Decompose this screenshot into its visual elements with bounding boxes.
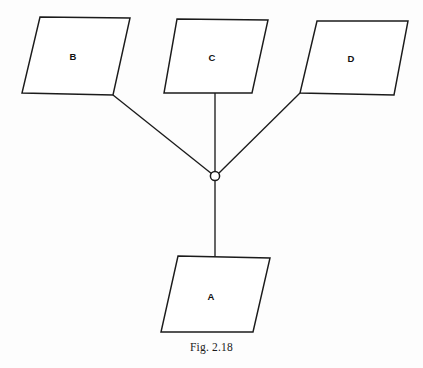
diagram-canvas: B C D A [0,0,423,368]
node-a-label: A [207,291,214,302]
node-d: D [300,21,408,95]
connector-d-to-junction [219,93,300,173]
node-d-label: D [347,53,354,64]
junction-node-icon [210,171,219,180]
node-c-shape [164,19,268,93]
connector-b-to-junction [113,95,212,174]
node-b-label: B [69,51,76,62]
node-b: B [22,17,130,95]
node-c: C [164,19,268,93]
figure-container: B C D A Fig. 2.18 [0,0,423,368]
connectors-group [113,93,300,257]
figure-caption: Fig. 2.18 [0,341,423,353]
node-c-label: C [208,52,215,63]
node-a-shape [161,256,270,332]
node-a: A [161,256,270,332]
